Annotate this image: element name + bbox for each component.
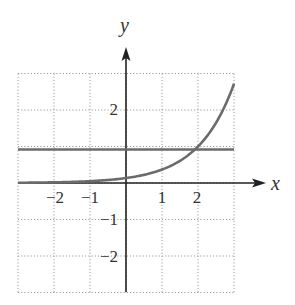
x-tick-label: 2 <box>193 188 202 207</box>
y-tick-label: −1 <box>100 210 118 229</box>
x-axis-label: x <box>270 172 280 194</box>
x-tick-label: −1 <box>81 188 99 207</box>
y-tick-label: −2 <box>100 247 118 266</box>
axes <box>20 47 266 292</box>
y-tick-label: 2 <box>110 100 119 119</box>
y-axis-label: y <box>118 14 129 37</box>
x-tick-label: −2 <box>46 188 64 207</box>
x-tick-label: 1 <box>158 188 167 207</box>
chart: x y −2 −1 1 2 2 −1 −2 <box>0 0 295 305</box>
